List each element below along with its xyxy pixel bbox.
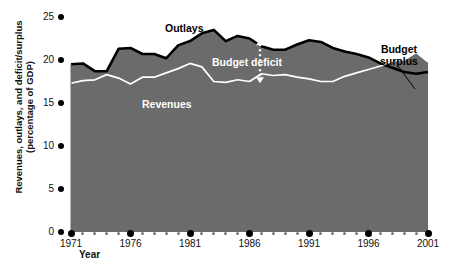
x-tick-dot-minor — [331, 232, 334, 235]
x-tick-label-2001: 2001 — [408, 238, 448, 249]
x-tick-label-1996: 1996 — [349, 238, 389, 249]
x-tick-dot-major — [365, 230, 372, 237]
budget-chart: Revenues, outlays, and deficit/surplus(p… — [0, 0, 450, 271]
x-tick-label-1986: 1986 — [230, 238, 270, 249]
annotation-outlays: Outlays — [165, 23, 204, 35]
x-tick-dot-minor — [105, 232, 108, 235]
x-tick-dot-major — [127, 230, 134, 237]
x-tick-dot-major — [68, 230, 75, 237]
x-tick-dot-minor — [177, 232, 180, 235]
x-tick-dot-minor — [224, 232, 227, 235]
x-tick-dot-major — [306, 230, 313, 237]
x-tick-dot-minor — [117, 232, 120, 235]
x-axis-title: Year — [79, 249, 100, 260]
x-tick-dot-minor — [272, 232, 275, 235]
annotation-budget-surplus: Budgetsurplus — [380, 44, 418, 67]
x-tick-dot-minor — [236, 232, 239, 235]
x-tick-label-1981: 1981 — [170, 238, 210, 249]
annotation-budget-surplus-line1: Budget — [381, 43, 417, 55]
x-tick-dot-minor — [343, 232, 346, 235]
x-tick-dot-major — [425, 230, 432, 237]
x-tick-dot-minor — [355, 232, 358, 235]
x-tick-dot-minor — [153, 232, 156, 235]
x-tick-dot-minor — [391, 232, 394, 235]
x-tick-dot-minor — [141, 232, 144, 235]
x-tick-dot-minor — [379, 232, 382, 235]
x-tick-dot-major — [187, 230, 194, 237]
x-tick-dot-minor — [93, 232, 96, 235]
annotation-budget-deficit: Budget deficit — [212, 57, 282, 69]
x-tick-dot-major — [246, 230, 253, 237]
x-tick-dot-minor — [165, 232, 168, 235]
x-tick-dot-minor — [260, 232, 263, 235]
annotation-budget-surplus-line2: surplus — [380, 55, 418, 67]
x-tick-dot-minor — [403, 232, 406, 235]
x-tick-label-1991: 1991 — [289, 238, 329, 249]
x-tick-dot-minor — [212, 232, 215, 235]
x-tick-dot-minor — [284, 232, 287, 235]
annotation-revenues: Revenues — [142, 99, 192, 111]
x-tick-dot-minor — [296, 232, 299, 235]
x-tick-label-1971: 1971 — [51, 238, 91, 249]
plot-area — [0, 0, 450, 271]
x-tick-dot-minor — [415, 232, 418, 235]
x-tick-label-1976: 1976 — [111, 238, 151, 249]
